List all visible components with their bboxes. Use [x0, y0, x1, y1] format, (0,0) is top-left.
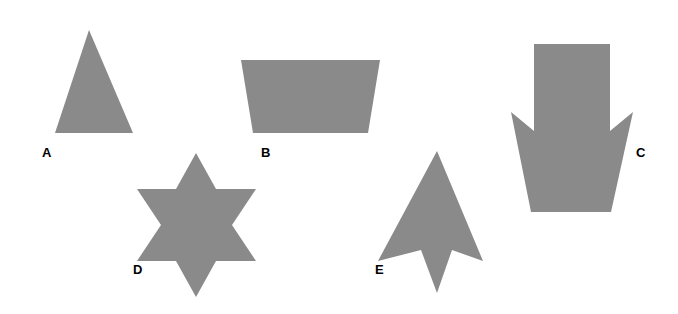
- down-arrow-shape: [511, 44, 633, 212]
- shapes-figure: A B C D E: [0, 0, 678, 314]
- shape-label-a: A: [42, 146, 51, 159]
- shape-label-c: C: [636, 146, 645, 159]
- shape-label-b: B: [261, 146, 270, 159]
- shape-label-d: D: [133, 263, 142, 276]
- up-arrow-dart-shape: [378, 151, 483, 293]
- trapezoid-shape: [241, 60, 380, 133]
- star-six-shape: [137, 153, 256, 297]
- triangle-shape: [55, 30, 133, 133]
- shape-label-e: E: [375, 263, 384, 276]
- shape-canvas: [0, 0, 678, 314]
